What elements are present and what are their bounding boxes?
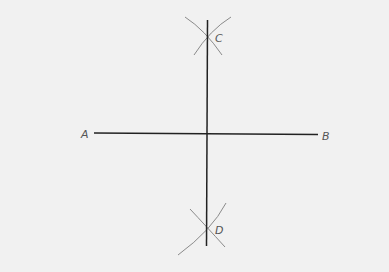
label-c: C bbox=[215, 32, 223, 45]
segment-cd bbox=[207, 20, 208, 246]
perpendicular-bisector-diagram: A B C D bbox=[0, 0, 389, 272]
diagram-canvas: A B C D bbox=[0, 0, 389, 272]
label-b: B bbox=[322, 130, 330, 143]
segment-ab bbox=[94, 133, 318, 135]
arc-c-right bbox=[194, 17, 231, 55]
label-a: A bbox=[80, 128, 89, 141]
label-d: D bbox=[215, 224, 223, 237]
